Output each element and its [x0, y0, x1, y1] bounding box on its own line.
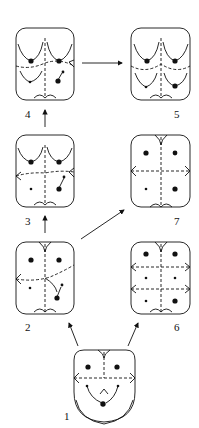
diagram-canvas [0, 0, 199, 428]
arrow-2-to-7 [81, 210, 124, 239]
panel-3-label: 3 [25, 216, 31, 227]
panel-3 [16, 135, 74, 207]
panel-5-label: 5 [174, 109, 180, 120]
panel-4-label: 4 [25, 109, 31, 120]
panel-2 [16, 242, 74, 314]
panel-1-label: 1 [64, 411, 70, 422]
panel-1 [74, 350, 135, 424]
panel-5 [131, 28, 190, 100]
panel-6 [131, 242, 190, 314]
panel-4 [16, 28, 74, 100]
arrows [45, 63, 138, 346]
panel-7-label: 7 [174, 216, 180, 227]
panel-6-label: 6 [174, 322, 180, 333]
panel-2-label: 2 [25, 322, 31, 333]
panel-7 [131, 135, 190, 207]
arrow-1-to-2 [69, 323, 78, 346]
arrow-1-to-6 [128, 323, 138, 346]
